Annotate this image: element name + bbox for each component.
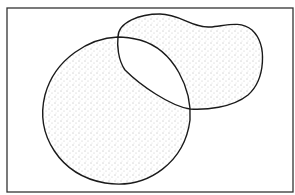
venn-diagram: [0, 0, 295, 195]
